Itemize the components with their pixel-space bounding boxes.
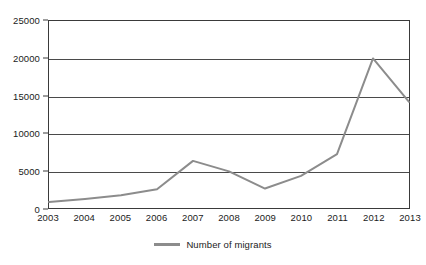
- x-tick-label-2013: 2013: [399, 212, 421, 223]
- y-axis: 0500010000150002000025000: [0, 20, 48, 209]
- x-tick-label-2003: 2003: [37, 212, 59, 223]
- x-tick-label-2011: 2011: [327, 212, 348, 223]
- x-tick-label-2005: 2005: [110, 212, 132, 223]
- legend-item-number-of-migrants: Number of migrants: [154, 239, 271, 250]
- legend-item-label: Number of migrants: [186, 239, 271, 250]
- chart-legend: Number of migrants: [0, 239, 426, 250]
- x-tick-label-2004: 2004: [73, 212, 95, 223]
- x-axis: 2003200420052006200720082009201020112012…: [48, 212, 410, 230]
- y-tick-label-25000: 25000: [13, 15, 40, 26]
- x-tick-label-2010: 2010: [291, 212, 313, 223]
- y-tick-label-20000: 20000: [13, 52, 40, 63]
- x-tick-label-2007: 2007: [182, 212, 204, 223]
- y-tick-label-15000: 15000: [13, 90, 40, 101]
- series-layer: [49, 21, 409, 208]
- legend-line-icon: [154, 243, 180, 246]
- line-chart: 0500010000150002000025000 20032004200520…: [0, 0, 426, 265]
- x-tick-label-2009: 2009: [254, 212, 276, 223]
- series-line-number-of-migrants: [49, 58, 409, 202]
- y-tick-label-5000: 5000: [18, 166, 40, 177]
- plot-area: [48, 20, 410, 209]
- x-tick-label-2008: 2008: [218, 212, 240, 223]
- x-tick-label-2012: 2012: [363, 212, 385, 223]
- x-tick-label-2006: 2006: [146, 212, 168, 223]
- y-tick-label-10000: 10000: [13, 128, 40, 139]
